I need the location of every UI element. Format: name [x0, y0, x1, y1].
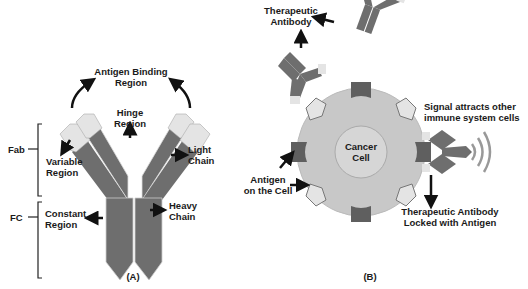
region-brackets: [28, 124, 42, 278]
label-signal-attracts: Signal attracts other immune system cell…: [424, 101, 520, 123]
label-antigen-binding-region: Antigen Binding Region: [86, 66, 176, 88]
label-hinge-region: Hinge Region: [108, 107, 152, 129]
label-antigen-on-cell: Antigen on the Cell: [238, 174, 298, 196]
label-heavy-chain: Heavy Chain: [169, 200, 197, 222]
label-light-chain: Light Chain: [188, 144, 214, 166]
label-constant-region: Constant Region: [45, 208, 86, 230]
caption-a: (A): [118, 271, 148, 282]
label-therapeutic-antibody: Therapeutic Antibody: [256, 5, 326, 27]
label-antibody-locked: Therapeutic Antibody Locked with Antigen: [390, 206, 510, 228]
antibody-structure: [60, 114, 210, 280]
signal-waves-icon: [472, 132, 490, 172]
label-variable-region: Variable Region: [46, 156, 82, 178]
floating-antibody-left: [278, 52, 326, 104]
label-cancer-cell: Cancer Cell: [340, 141, 382, 163]
floating-antibody-top: [341, 0, 408, 41]
label-fc: FC: [10, 212, 23, 223]
label-fab: Fab: [8, 144, 25, 155]
antibody-diagram-graphic: [0, 0, 528, 289]
caption-b: (B): [355, 271, 385, 282]
